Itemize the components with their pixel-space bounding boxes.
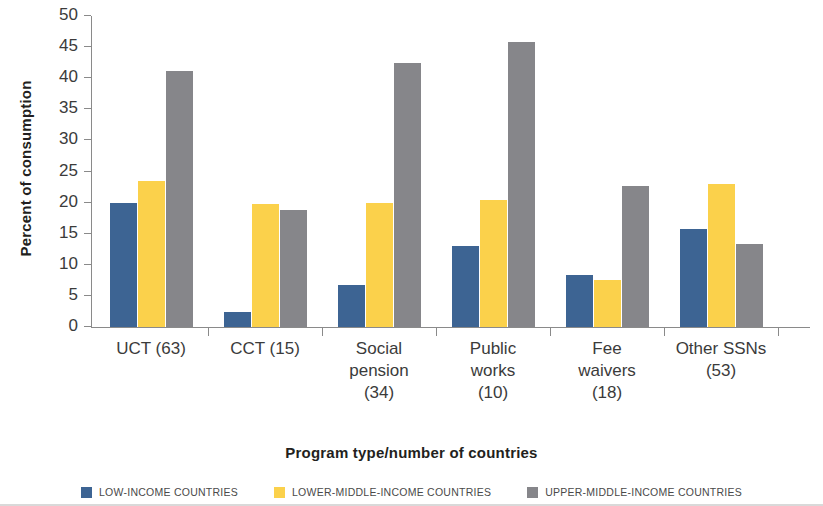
x-axis-separator	[322, 328, 323, 336]
x-axis-title: Program type/number of countries	[0, 444, 823, 461]
bar	[680, 229, 707, 327]
category-label-line: waivers	[550, 360, 664, 382]
bar	[452, 246, 479, 327]
category-label-line: works	[436, 360, 550, 382]
y-axis-tick-mark	[84, 233, 91, 234]
y-axis-tick-mark	[84, 264, 91, 265]
y-axis-tick-mark	[84, 295, 91, 296]
x-axis-category-label: CCT (15)	[208, 338, 322, 360]
y-axis-tick-label: 20	[59, 192, 78, 212]
bar	[594, 280, 621, 327]
x-axis-category-label: Publicworks(10)	[436, 338, 550, 404]
bar-chart-figure: Percent of consumption 05101520253035404…	[0, 0, 823, 506]
y-axis-tick-mark	[84, 202, 91, 203]
y-axis-tick-label: 50	[59, 5, 78, 25]
legend-swatch-icon	[274, 487, 285, 498]
legend-swatch-icon	[527, 487, 538, 498]
x-axis-separator	[664, 328, 665, 336]
bar	[566, 275, 593, 327]
bar	[508, 42, 535, 327]
x-axis-line	[91, 327, 810, 328]
bar	[280, 210, 307, 327]
category-label-line: Fee	[550, 338, 664, 360]
x-axis-separator	[208, 328, 209, 336]
category-label-line: Other SSNs	[664, 338, 778, 360]
legend-label: UPPER-MIDDLE-INCOME COUNTRIES	[545, 486, 742, 498]
category-label-line: UCT (63)	[94, 338, 208, 360]
bar	[224, 312, 251, 327]
legend-swatch-icon	[81, 487, 92, 498]
bar	[708, 184, 735, 327]
y-axis-tick-mark	[84, 171, 91, 172]
category-label-line: (10)	[436, 382, 550, 404]
y-axis-tick-label: 10	[59, 254, 78, 274]
legend-item[interactable]: LOWER-MIDDLE-INCOME COUNTRIES	[274, 486, 491, 498]
category-label-line: (53)	[664, 360, 778, 382]
x-axis-category-label: Other SSNs(53)	[664, 338, 778, 382]
bar	[338, 285, 365, 327]
y-axis-tick-mark	[84, 77, 91, 78]
y-axis-tick-mark	[84, 108, 91, 109]
y-axis-title: Percent of consumption	[17, 39, 34, 299]
bar	[736, 244, 763, 327]
legend-item[interactable]: UPPER-MIDDLE-INCOME COUNTRIES	[527, 486, 742, 498]
y-axis-tick-mark	[84, 46, 91, 47]
y-axis-tick-label: 5	[69, 285, 78, 305]
legend-item[interactable]: LOW-INCOME COUNTRIES	[81, 486, 238, 498]
x-axis-category-label: UCT (63)	[94, 338, 208, 360]
category-label-line: Social	[322, 338, 436, 360]
x-axis-category-label: Feewaivers(18)	[550, 338, 664, 404]
category-label-line: (18)	[550, 382, 664, 404]
bar	[252, 204, 279, 327]
bar	[394, 63, 421, 327]
category-label-line: pension	[322, 360, 436, 382]
bar	[622, 186, 649, 327]
y-axis-tick-mark	[84, 326, 91, 327]
legend-label: LOW-INCOME COUNTRIES	[99, 486, 238, 498]
bar	[166, 71, 193, 327]
y-axis-tick-label: 45	[59, 36, 78, 56]
y-axis-tick-label: 35	[59, 98, 78, 118]
y-axis-tick-label: 30	[59, 129, 78, 149]
chart-legend: LOW-INCOME COUNTRIESLOWER-MIDDLE-INCOME …	[0, 486, 823, 498]
bar	[480, 200, 507, 328]
y-axis-tick-label: 15	[59, 223, 78, 243]
plot-area	[91, 16, 807, 327]
x-axis-category-label: Socialpension(34)	[322, 338, 436, 404]
bar	[110, 203, 137, 327]
y-axis-tick-mark	[84, 15, 91, 16]
category-label-line: CCT (15)	[208, 338, 322, 360]
y-axis-tick-label: 0	[69, 316, 78, 336]
legend-label: LOWER-MIDDLE-INCOME COUNTRIES	[292, 486, 491, 498]
x-axis-separator	[436, 328, 437, 336]
bar	[138, 181, 165, 327]
y-axis-tick-label: 40	[59, 67, 78, 87]
y-axis-tick-label: 25	[59, 161, 78, 181]
x-axis-separator	[778, 328, 779, 336]
category-label-line: Public	[436, 338, 550, 360]
category-label-line: (34)	[322, 382, 436, 404]
y-axis-tick-mark	[84, 139, 91, 140]
x-axis-separator	[550, 328, 551, 336]
bar	[366, 203, 393, 327]
